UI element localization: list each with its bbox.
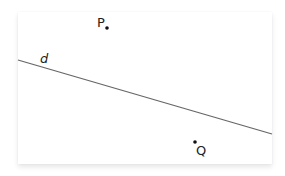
point-p-dot xyxy=(105,26,109,30)
point-p-label: P xyxy=(97,16,105,29)
geometry-canvas xyxy=(0,0,285,176)
line-d xyxy=(18,60,272,134)
point-q-label: Q xyxy=(196,144,206,157)
line-d-label: d xyxy=(40,52,48,65)
